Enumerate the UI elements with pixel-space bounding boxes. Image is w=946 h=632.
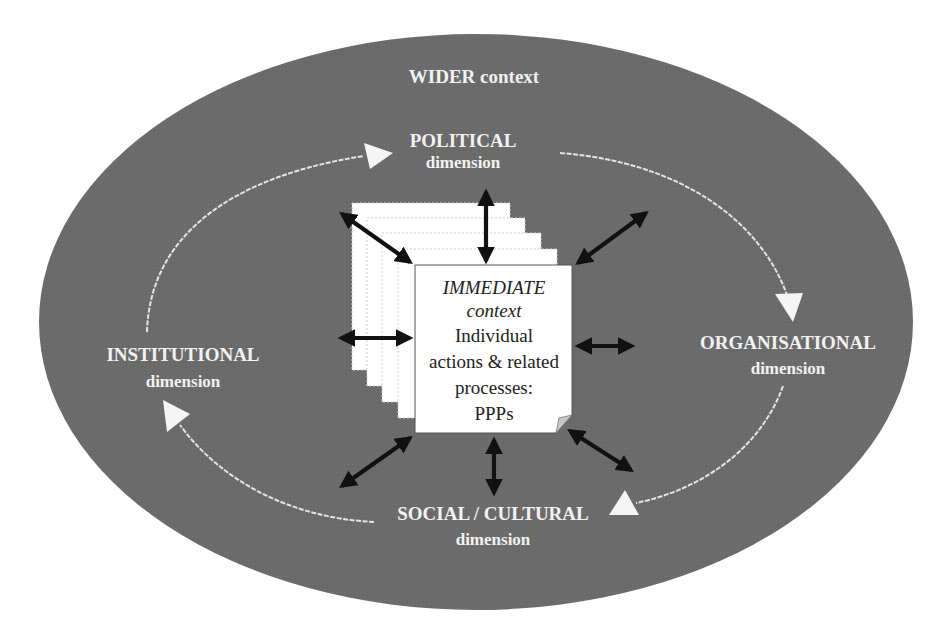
dimension-subtitle: dimension <box>426 153 501 172</box>
context-label: context <box>467 300 523 321</box>
immediate-context-page: IMMEDIATE context Individual actions & r… <box>415 265 572 433</box>
dimension-title: POLITICAL <box>410 130 517 151</box>
dimension-subtitle: dimension <box>751 359 826 378</box>
context-diagram: WIDER context POLITICAL dimension ORGANI… <box>0 0 946 632</box>
dimension-title: SOCIAL / CULTURAL <box>397 503 588 524</box>
center-text-line: Individual <box>455 325 533 346</box>
dimension-title: ORGANISATIONAL <box>700 332 876 353</box>
wider-context-label: WIDER context <box>409 66 540 87</box>
center-text-line: actions & related <box>429 351 559 372</box>
dimension-title: INSTITUTIONAL <box>106 344 259 365</box>
ppps-label: PPPs <box>474 403 513 424</box>
immediate-label: IMMEDIATE <box>442 277 546 298</box>
center-text-line: processes: <box>455 377 533 398</box>
page-stack: IMMEDIATE context Individual actions & r… <box>352 203 572 433</box>
dimension-subtitle: dimension <box>146 372 221 391</box>
dimension-subtitle: dimension <box>456 530 531 549</box>
